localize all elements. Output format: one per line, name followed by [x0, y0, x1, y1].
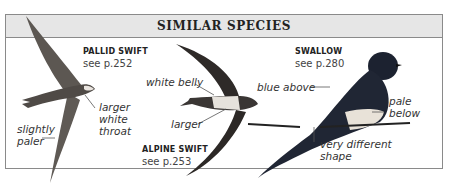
- alpine-swift-label: ALPINE SWIFT see p.253: [142, 144, 208, 168]
- note-larger: larger: [171, 118, 202, 130]
- note-blue-above: blue above: [257, 81, 315, 93]
- species-name: PALLID SWIFT: [83, 46, 148, 58]
- note-pale-below: pale below: [389, 95, 420, 119]
- note-very-different-shape: very different shape: [320, 138, 392, 162]
- species-name: ALPINE SWIFT: [142, 144, 208, 156]
- note-white-belly: white belly: [146, 76, 203, 88]
- note-slightly-paler: slightly paler: [17, 123, 55, 147]
- note-larger-white-throat: larger white throat: [99, 101, 131, 137]
- panel-header: SIMILAR SPECIES: [6, 15, 442, 38]
- page-reference: see p.252: [83, 58, 148, 70]
- pallid-swift-label: PALLID SWIFT see p.252: [83, 46, 148, 70]
- swallow-label: SWALLOW see p.280: [295, 46, 344, 70]
- panel-title: SIMILAR SPECIES: [157, 19, 291, 33]
- page-reference: see p.253: [142, 156, 208, 168]
- page-reference: see p.280: [295, 58, 344, 70]
- species-name: SWALLOW: [295, 46, 344, 58]
